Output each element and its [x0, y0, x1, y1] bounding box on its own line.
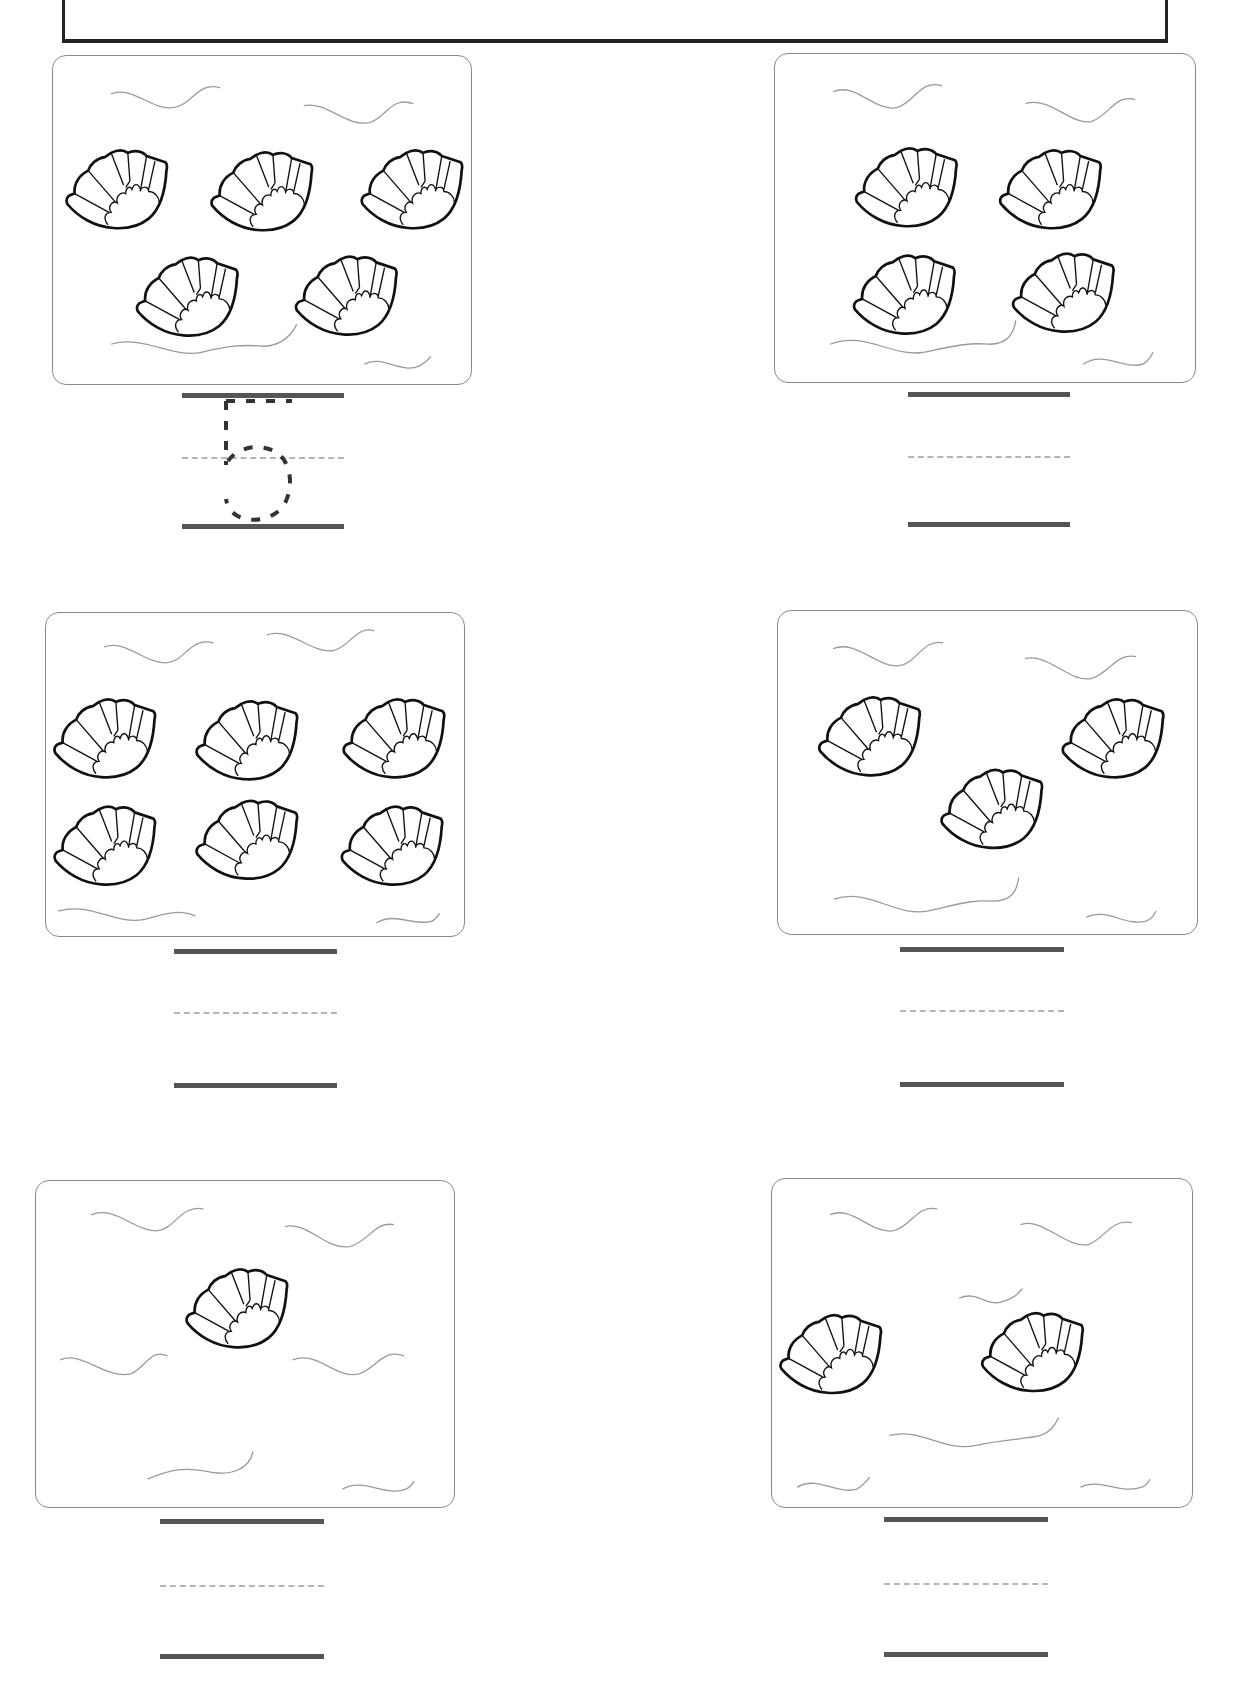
- scallop-shell-icon: [66, 151, 167, 229]
- bottom-writing-line: [908, 522, 1070, 527]
- answer-writing-lines-6[interactable]: [884, 1517, 1048, 1657]
- mid-guide-line: [160, 1585, 324, 1587]
- wave-line-icon: [111, 87, 220, 108]
- scallop-shell-icon: [819, 698, 920, 776]
- scallop-shell-icon: [942, 770, 1043, 848]
- wave-line-icon: [60, 1354, 167, 1375]
- mid-guide-line: [908, 456, 1070, 458]
- wave-line-icon: [1080, 1479, 1150, 1489]
- scallop-shell-icon: [212, 152, 313, 230]
- scallop-shell-icon: [1013, 254, 1114, 332]
- shell-count-panel-5: [35, 1180, 455, 1508]
- scallop-shell-icon: [982, 1313, 1083, 1391]
- wave-line-icon: [304, 102, 413, 123]
- scallop-shell-icon: [342, 807, 443, 885]
- bottom-writing-line: [884, 1652, 1048, 1657]
- wave-line-icon: [342, 1481, 414, 1491]
- wave-line-icon: [58, 909, 195, 921]
- wave-line-icon: [104, 642, 213, 663]
- wave-line-icon: [376, 913, 440, 923]
- shell-count-panel-1: [52, 55, 472, 385]
- wave-line-icon: [1021, 1222, 1132, 1245]
- shell-count-panel-6: [771, 1178, 1193, 1508]
- answer-writing-lines-2[interactable]: [908, 392, 1070, 532]
- wave-line-icon: [830, 1208, 937, 1231]
- scallop-shell-icon: [856, 149, 957, 227]
- scallop-shell-icon: [137, 258, 238, 336]
- bottom-writing-line: [160, 1654, 324, 1659]
- wave-line-icon: [148, 1451, 253, 1479]
- scallop-shell-icon: [55, 807, 156, 885]
- wave-line-icon: [833, 85, 942, 108]
- bottom-writing-line: [900, 1082, 1064, 1087]
- scallop-shell-icon: [197, 702, 298, 780]
- scallop-shell-icon: [344, 700, 445, 778]
- answer-writing-lines-5[interactable]: [160, 1519, 324, 1659]
- wave-line-icon: [285, 1224, 394, 1247]
- top-writing-line: [908, 392, 1070, 397]
- answer-writing-lines-1[interactable]: [182, 393, 344, 533]
- shell-count-panel-2: [774, 53, 1196, 383]
- wave-line-icon: [834, 877, 1019, 912]
- scallop-shell-icon: [1063, 700, 1164, 778]
- panel-4-illustration: [778, 611, 1197, 934]
- wave-line-icon: [797, 1477, 870, 1490]
- scallop-shell-icon: [55, 700, 156, 778]
- wave-line-icon: [267, 630, 374, 651]
- shell-count-panel-4: [777, 610, 1198, 935]
- wave-line-icon: [890, 1418, 1059, 1447]
- top-writing-line: [884, 1517, 1048, 1522]
- panel-2-illustration: [775, 54, 1195, 382]
- wave-line-icon: [91, 1208, 203, 1230]
- panel-5-illustration: [36, 1181, 454, 1507]
- answer-writing-lines-4[interactable]: [900, 947, 1064, 1087]
- mid-guide-line: [174, 1012, 337, 1014]
- scallop-shell-icon: [296, 257, 397, 335]
- scallop-shell-icon: [187, 1270, 288, 1348]
- mid-guide-line: [884, 1583, 1048, 1585]
- scallop-shell-icon: [1000, 150, 1101, 228]
- wave-line-icon: [833, 642, 943, 666]
- wave-line-icon: [1025, 656, 1136, 679]
- scallop-shell-icon: [781, 1315, 882, 1393]
- panel-3-illustration: [46, 613, 464, 936]
- top-writing-line: [900, 947, 1064, 952]
- bottom-writing-line: [174, 1083, 337, 1088]
- scallop-shell-icon: [362, 151, 463, 229]
- title-box: [62, 0, 1168, 43]
- traced-digit-5: [182, 393, 344, 533]
- wave-line-icon: [1086, 911, 1156, 922]
- shell-count-panel-3: [45, 612, 465, 937]
- wave-line-icon: [364, 356, 431, 368]
- scallop-shell-icon: [197, 801, 298, 879]
- top-writing-line: [160, 1519, 324, 1524]
- panel-6-illustration: [772, 1179, 1192, 1507]
- wave-line-icon: [293, 1354, 404, 1375]
- top-writing-line: [174, 949, 337, 954]
- wave-line-icon: [959, 1288, 1023, 1303]
- wave-line-icon: [1083, 352, 1153, 365]
- wave-line-icon: [1026, 99, 1135, 122]
- answer-writing-lines-3[interactable]: [174, 949, 337, 1089]
- mid-guide-line: [900, 1010, 1064, 1012]
- scallop-shell-icon: [854, 256, 955, 334]
- panel-1-illustration: [53, 56, 471, 384]
